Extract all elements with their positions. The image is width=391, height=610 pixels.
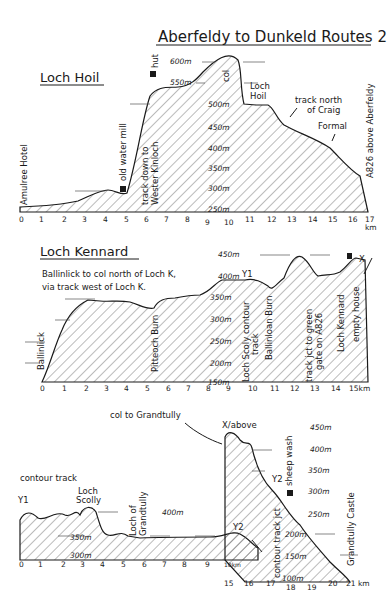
label-x-above: X/above	[222, 420, 257, 430]
elev-label: 400m	[208, 144, 230, 153]
km-tick: 7	[162, 560, 167, 569]
label-y1: Y1	[17, 495, 29, 505]
label-x: X	[359, 254, 365, 264]
km-axis: 0 1 2 3 4 5 6 7 8 9 10km	[19, 560, 241, 569]
elev-label: 550m	[170, 78, 192, 87]
km-tick: 4	[100, 560, 105, 569]
km-tick: 7	[164, 215, 169, 224]
elev-label: 100m	[282, 574, 304, 583]
km-tick: 0	[19, 560, 24, 569]
km-tick: 8	[185, 215, 190, 224]
label-loch-of: Loch of	[128, 504, 138, 536]
subtitle-1: Ballinlick to col north of Loch K,	[42, 269, 176, 279]
label-loch-scolly-2: Scolly	[76, 495, 101, 505]
km-tick: 5	[124, 215, 129, 224]
label-empty-house: empty house	[351, 286, 361, 342]
sheep-wash-marker-icon	[287, 490, 293, 496]
km-tick: 15	[224, 579, 234, 588]
elev-label: 350m	[308, 466, 330, 475]
elev-label: 300m	[210, 315, 232, 324]
label-jct: track jct to green	[304, 309, 314, 382]
label-col: col	[221, 70, 231, 82]
km-tick: 17	[266, 579, 276, 588]
km-tick: 6	[142, 560, 147, 569]
km-tick: 15km	[349, 384, 370, 393]
km-tick: 9	[205, 560, 210, 569]
elev-label: 300m	[70, 551, 92, 560]
label-y1: Y1	[241, 269, 253, 279]
subtitle-2: via track west of Loch K.	[42, 282, 146, 292]
km-tick: 9	[226, 384, 231, 393]
km-tick: 3	[104, 384, 109, 393]
loch-kennard-profile: Loch Kennard Ballinlick to col north of …	[25, 244, 372, 393]
hut-marker-icon	[150, 71, 156, 77]
mill-marker-icon	[120, 186, 126, 192]
label-track-north-3: Formal	[318, 121, 347, 131]
label-track-north-2: of Craig	[307, 105, 340, 115]
arrow	[290, 108, 297, 117]
elev-label: 450m	[218, 250, 240, 259]
label-start: Amulree Hotel	[19, 144, 29, 205]
arrow	[185, 423, 222, 444]
km-tick: 10	[248, 384, 258, 393]
elev-label: 450m	[310, 423, 332, 432]
elev-label: 400m	[162, 508, 184, 517]
km-tick: 13	[310, 384, 320, 393]
km-tick: 8	[206, 384, 211, 393]
label-grandtully-castle: Grandtully Castle	[346, 492, 356, 566]
elev-label: 250m	[208, 205, 230, 214]
elev-label: 300m	[308, 487, 330, 496]
label-sheep-wash: sheep wash	[284, 436, 294, 486]
km-tick: 0	[19, 215, 24, 224]
section-title-loch-hoil: Loch Hoil	[40, 70, 99, 85]
arrow	[332, 134, 335, 141]
label-grandtully: Grandtully	[138, 491, 148, 536]
km-tick: 1	[62, 384, 67, 393]
empty-house-marker-icon	[347, 253, 352, 259]
km-axis: 0 1 2 3 4 5 6 7 8 9 10 11 12 13 14 15 16…	[19, 215, 377, 232]
elev-label: 500m	[208, 100, 230, 109]
label-end: A826 above Aberfeldy	[365, 84, 375, 178]
km-tick: 9	[205, 218, 210, 227]
label-burn2: Ballinloan Burn	[264, 296, 274, 360]
km-tick: 6	[166, 384, 171, 393]
section-title-contour-track: contour track	[20, 473, 77, 483]
elev-label: 400m	[218, 272, 240, 281]
km-tick: 4	[103, 215, 108, 224]
elev-label: 250m	[210, 337, 232, 346]
elev-label: 600m	[170, 57, 192, 66]
label-burn1: Pitteoch Burn	[150, 315, 160, 372]
km-tick: 5	[121, 560, 126, 569]
elev-label: 350m	[208, 164, 230, 173]
km-tick: 12	[290, 384, 300, 393]
label-track-down-2: Wester Kinloch	[150, 142, 160, 205]
elev-label: 200m	[285, 530, 307, 539]
label-hut: hut	[150, 53, 160, 68]
km-tick: 8	[182, 560, 187, 569]
km-tick: 5	[145, 384, 150, 393]
km-tick: 19	[307, 583, 317, 592]
km-tick: 10	[224, 218, 234, 227]
label-track-down: track down to	[140, 146, 150, 205]
km-tick: 11	[245, 215, 255, 224]
km-tick: 11	[270, 384, 280, 393]
km-tick: 1	[38, 560, 43, 569]
elev-label: 350m	[210, 293, 232, 302]
elev-label: 300m	[208, 184, 230, 193]
label-contour-track-jct: contour track jct	[272, 507, 282, 578]
label-mill: old water mill	[118, 123, 128, 181]
km-tick: 21 km	[346, 579, 370, 588]
label-loch-2: Hoil	[250, 91, 266, 101]
label-jct-2: gate on A826	[314, 313, 324, 370]
km-tick: 18	[286, 583, 296, 592]
km-tick: 4	[124, 384, 129, 393]
label-track-north: track north	[295, 95, 342, 105]
km-unit: km	[365, 223, 377, 232]
km-tick: 2	[62, 215, 67, 224]
section-title-loch-kennard: Loch Kennard	[40, 244, 128, 259]
elev-label: 250m	[308, 510, 330, 519]
elev-label: 150m	[285, 552, 307, 561]
km-tick: 20	[328, 579, 338, 588]
km-tick: 6	[144, 215, 149, 224]
elev-label: 450m	[208, 123, 230, 132]
